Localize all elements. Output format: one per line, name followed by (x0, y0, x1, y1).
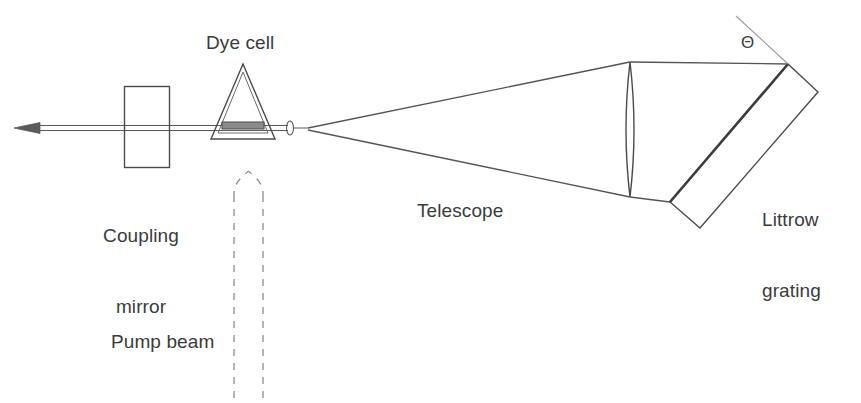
telescope-beam-upper-edge (308, 62, 630, 128)
littrow-grating-label-line2: grating (762, 279, 858, 303)
dye-cell-label: Dye cell (206, 31, 274, 55)
pump-beam-arrow-right-barb (249, 171, 264, 198)
littrow-grating-label-line1: Littrow (762, 208, 858, 232)
output-beam-arrowhead (14, 123, 40, 134)
telescope-beam-lower-edge (308, 130, 630, 197)
dye-cell-group (211, 64, 275, 139)
coupling-mirror-label-line1: Coupling (86, 224, 196, 248)
collimated-beam-lower-edge (630, 197, 670, 202)
pump-beam-label: Pump beam (111, 330, 214, 354)
telescope-lens (626, 62, 634, 197)
waist-lens-ellipse (287, 121, 294, 135)
pump-beam-arrow-left-barb (234, 171, 249, 198)
coupling-mirror-label-line2: mirror (86, 295, 196, 319)
telescope-group (287, 62, 789, 202)
dye-cell-active-medium (222, 122, 264, 129)
optical-diagram-figure: Dye cell Coupling mirror Pump beam Teles… (0, 0, 861, 403)
pump-beam-group (234, 171, 263, 398)
telescope-label: Telescope (417, 199, 503, 223)
theta-angle-label: Θ (741, 32, 754, 53)
littrow-grating-label: Littrow grating (762, 160, 858, 350)
coupling-mirror-shape (125, 87, 170, 168)
collimated-beam-upper-edge (630, 62, 788, 64)
beam-waist-element (287, 121, 309, 135)
